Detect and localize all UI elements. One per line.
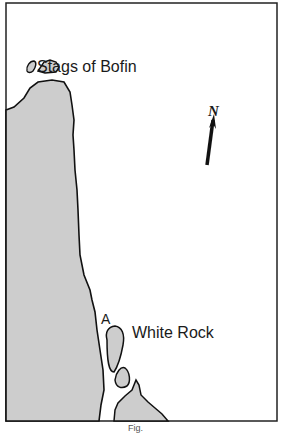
north-label: N	[208, 103, 219, 120]
label-point-a: A	[101, 311, 110, 327]
figure-caption: Fig.	[128, 423, 143, 433]
label-stags-of-bofin: Stags of Bofin	[37, 58, 137, 76]
label-white-rock: White Rock	[132, 324, 214, 342]
